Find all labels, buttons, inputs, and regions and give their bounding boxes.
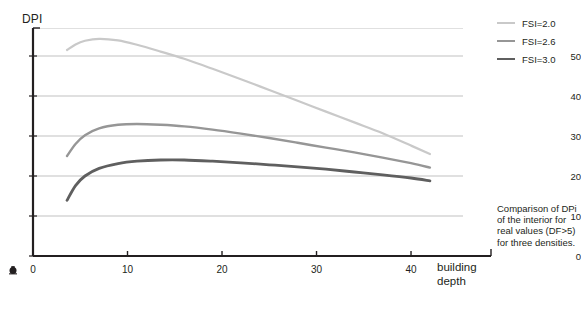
- x-axis-title: building depth: [437, 261, 477, 288]
- legend-swatch-icon: [497, 40, 515, 42]
- y-axis-tick-label: 30: [555, 131, 581, 142]
- y-axis-tick-label: 10: [555, 211, 581, 222]
- y-axis-tick-label: 50: [555, 51, 581, 62]
- y-axis-title: DPI: [22, 12, 43, 26]
- y-axis-tick-labels: [0, 28, 29, 256]
- legend-item: FSI=2.0: [497, 14, 577, 32]
- x-axis-tick-label: 0: [30, 264, 36, 275]
- x-axis-tick-label: 30: [311, 264, 322, 275]
- legend-label: FSI=2.0: [522, 18, 556, 29]
- legend-label: FSI=3.0: [522, 54, 556, 65]
- publisher-mark-icon: [8, 265, 18, 275]
- y-axis-tick-label: 40: [555, 91, 581, 102]
- legend-swatch-icon: [497, 22, 515, 24]
- y-axis-tick-label: 20: [555, 171, 581, 182]
- x-axis-tick-label: 20: [216, 264, 227, 275]
- legend-item: FSI=2.6: [497, 32, 577, 50]
- y-axis-tick-label: 0: [555, 251, 581, 262]
- chart-container: DPI building depth FSI=2.0 FSI=2.6 FSI=3…: [0, 0, 581, 324]
- plot-area: [33, 28, 463, 256]
- x-axis-tick-label: 10: [122, 264, 133, 275]
- x-axis-tick-label: 40: [405, 264, 416, 275]
- chart-svg: [33, 28, 463, 256]
- x-axis-title-line1: building: [437, 261, 477, 275]
- x-axis-title-line2: depth: [437, 275, 477, 289]
- legend-swatch-icon: [497, 58, 515, 60]
- series-line-fsi-3-0: [67, 160, 430, 201]
- legend-label: FSI=2.6: [522, 36, 556, 47]
